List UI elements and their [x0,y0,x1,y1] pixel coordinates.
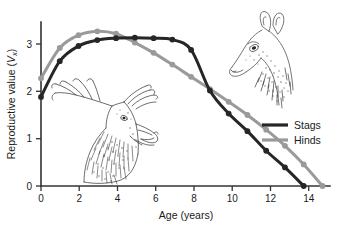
data-point [301,183,307,189]
legend-item-stags[interactable]: Stags [262,119,321,131]
stags-line [41,38,304,186]
data-point [263,127,269,133]
x-tick-label-14: 14 [303,193,315,204]
legend-item-hinds[interactable]: Hinds [262,134,321,146]
chart-axes [41,22,330,186]
legend-label-hinds: Hinds [294,134,321,146]
stags-markers [38,35,307,189]
y-axis-ticks: 0 1 2 3 [26,39,41,192]
data-point [132,35,138,41]
x-tick-label-10: 10 [227,193,239,204]
data-point [188,47,194,53]
stag-stipple [93,109,136,181]
data-point [38,75,44,81]
data-point [76,43,82,49]
y-tick-label-3: 3 [26,39,32,50]
data-point [151,50,157,56]
data-point [188,74,194,80]
y-tick-label-1: 1 [26,133,32,144]
data-point [94,28,100,34]
data-point [245,112,251,118]
stag-illustration [52,79,158,184]
y-tick-label-2: 2 [26,86,32,97]
data-point [57,58,63,64]
y-axis-title-text: Reproductive value [5,69,17,159]
y-axis-title: Reproductive value (Vx) [5,49,19,160]
data-point [245,128,251,134]
data-point [169,62,175,68]
x-tick-label-4: 4 [115,193,121,204]
series-stags [38,35,307,189]
y-tick-label-0: 0 [26,181,32,192]
data-point [226,111,232,117]
data-point [76,32,82,38]
data-point [169,37,175,43]
data-point [207,88,213,94]
data-point [94,37,100,43]
legend-label-stags: Stags [294,119,321,131]
data-point [151,35,157,41]
hind-illustration [229,12,293,108]
reproductive-value-chart: 0 1 2 3 0 2 4 6 8 10 12 14 Age (years) [0,0,339,234]
data-point [282,143,288,149]
x-tick-label-8: 8 [191,193,197,204]
x-tick-label-0: 0 [38,193,44,204]
x-tick-label-6: 6 [153,193,159,204]
data-point [301,162,307,168]
data-point [320,183,326,189]
data-point [38,94,44,100]
data-point [226,99,232,105]
data-point [282,165,288,171]
data-point [57,45,63,51]
figure-container: 0 1 2 3 0 2 4 6 8 10 12 14 Age (years) [0,0,339,234]
x-axis-title: Age (years) [159,209,213,221]
stag-mane [87,132,133,184]
x-axis-ticks: 0 2 4 6 8 10 12 14 [38,186,314,204]
data-point [113,35,119,41]
x-tick-label-12: 12 [265,193,277,204]
data-point [263,148,269,154]
x-tick-label-2: 2 [76,193,82,204]
